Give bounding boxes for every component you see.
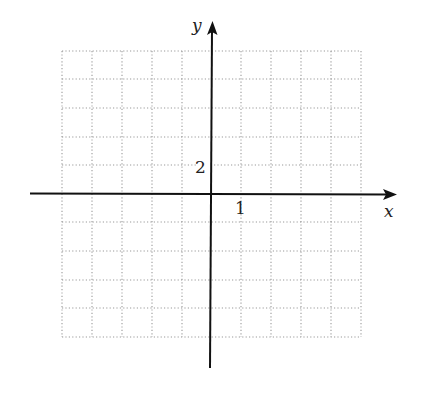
- x-tick-label: 1: [235, 198, 246, 218]
- x-axis: [30, 189, 397, 200]
- coordinate-plane: y x 2 1: [0, 0, 421, 393]
- y-tick-label: 2: [195, 157, 206, 177]
- y-axis-label: y: [191, 15, 202, 35]
- x-axis-label: x: [384, 201, 394, 221]
